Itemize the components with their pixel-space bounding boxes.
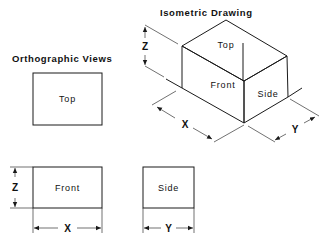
iso-z-dimension: Z [142, 41, 148, 52]
top-view-label: Top [59, 94, 76, 104]
side-view: Side Y [143, 167, 194, 234]
front-view: Front Z X [10, 167, 102, 234]
front-z-dimension: Z [12, 182, 18, 193]
iso-y-dimension: Y [292, 124, 299, 135]
front-x-dimension: X [64, 223, 71, 234]
isometric-box: Top Front Side Z X Y [142, 20, 319, 142]
isometric-drawing-title: Isometric Drawing [160, 7, 253, 18]
orthographic-views-title: Orthographic Views [12, 53, 112, 64]
diagram-canvas: Orthographic Views Isometric Drawing Top… [0, 0, 329, 236]
side-view-label: Side [158, 183, 179, 193]
top-view: Top [33, 73, 102, 125]
iso-x-dimension: X [182, 119, 189, 130]
iso-front-label: Front [210, 80, 235, 90]
side-y-dimension: Y [165, 223, 172, 234]
iso-side-label: Side [257, 89, 278, 99]
iso-top-label: Top [218, 40, 235, 50]
front-view-label: Front [55, 183, 80, 193]
